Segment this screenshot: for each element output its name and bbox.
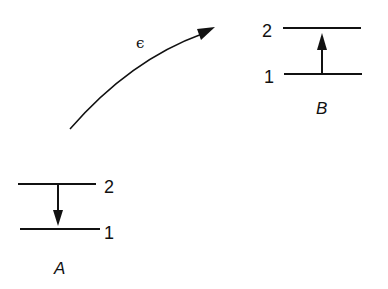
system-a-level-1-label: 1 — [104, 223, 114, 243]
system-a: 2 1 A — [18, 177, 114, 278]
system-b-name: B — [316, 99, 327, 118]
transfer-energy-label: ϵ — [136, 34, 144, 52]
system-a-level-2-label: 2 — [104, 177, 114, 197]
energy-transfer-arrow: ϵ — [70, 27, 215, 129]
system-b-level-2-label: 2 — [262, 21, 272, 41]
system-a-down-arrow-icon — [53, 184, 63, 226]
energy-transfer-diagram: 2 1 A 2 1 B ϵ — [0, 0, 388, 289]
system-a-name: A — [53, 259, 65, 278]
system-b-level-1-label: 1 — [264, 67, 274, 87]
system-b: 2 1 B — [262, 21, 362, 118]
system-b-up-arrow-icon — [317, 33, 327, 74]
